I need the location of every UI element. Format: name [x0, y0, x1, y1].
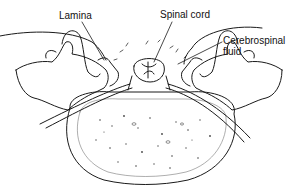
- lamina-leader: [82, 22, 104, 60]
- label-cerebrospinal-fluid: Cerebrospinal fluid: [223, 36, 285, 57]
- label-lamina: Lamina: [59, 11, 92, 22]
- vertebral-body: [67, 92, 236, 185]
- label-csf-line1: Cerebrospinal: [223, 35, 285, 46]
- spinal-cord-leader: [154, 22, 172, 62]
- label-csf-line2: fluid: [223, 46, 241, 57]
- left-lamina: [98, 58, 119, 86]
- left-transverse-process: [16, 42, 108, 110]
- label-spinal-cord: Spinal cord: [160, 10, 210, 21]
- spinal-cord: [134, 59, 165, 83]
- vertebra-diagram: [0, 0, 299, 188]
